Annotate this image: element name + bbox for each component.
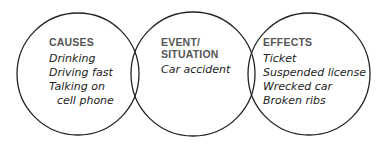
cause-item: Driving fast — [49, 66, 114, 80]
event-heading-line1: EVENT/ — [161, 36, 230, 48]
cause-item: Drinking — [49, 52, 114, 66]
event-item: Car accident — [161, 63, 230, 77]
event-heading-line2: SITUATION — [161, 48, 230, 60]
causes-heading: CAUSES — [49, 36, 114, 48]
effect-item: Ticket — [263, 52, 366, 66]
effects-section: EFFECTS Ticket Suspended license Wrecked… — [263, 36, 366, 108]
effects-heading: EFFECTS — [263, 36, 366, 48]
effect-item: Suspended license — [263, 66, 366, 80]
causes-section: CAUSES Drinking Driving fast Talking on … — [49, 36, 114, 108]
cause-item: Talking on — [49, 80, 114, 94]
effect-item: Broken ribs — [263, 94, 366, 108]
cause-item: cell phone — [49, 94, 114, 108]
event-section: EVENT/ SITUATION Car accident — [161, 36, 230, 77]
effect-item: Wrecked car — [263, 80, 366, 94]
